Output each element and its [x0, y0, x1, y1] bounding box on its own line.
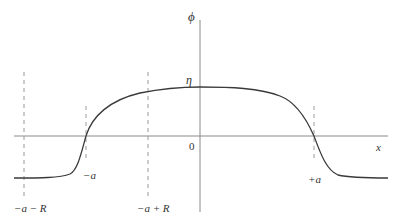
diagram-canvas	[0, 0, 400, 222]
marker-label-minus-a: −a	[83, 170, 96, 181]
y-axis-label: ϕ	[188, 10, 195, 23]
marker-label-plus-a: +a	[308, 174, 321, 185]
origin-label: 0	[189, 141, 195, 152]
marker-label-minus-a-minus-R: −a − R	[14, 203, 47, 214]
marker-label-minus-a-plus-R: −a + R	[137, 203, 170, 214]
phi-curve	[14, 87, 388, 178]
plateau-label-eta: η	[186, 74, 192, 86]
kink-profile-diagram: ϕ x η 0 −a − R −a −a + R +a	[0, 0, 400, 222]
x-axis-label: x	[376, 142, 381, 153]
